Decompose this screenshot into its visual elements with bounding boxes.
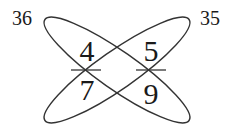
right-denominator: 9: [144, 77, 159, 110]
ellipse-5-7: [34, 4, 200, 134]
diagram-svg: 4 7 5 9 36 35: [0, 0, 233, 134]
ellipse-4-9: [34, 4, 200, 134]
right-product: 35: [200, 7, 220, 29]
right-numerator: 5: [144, 34, 159, 67]
left-product: 36: [12, 7, 32, 29]
left-denominator: 7: [80, 73, 95, 106]
cross-multiplication-diagram: 4 7 5 9 36 35: [0, 0, 233, 134]
left-numerator: 4: [80, 34, 95, 67]
